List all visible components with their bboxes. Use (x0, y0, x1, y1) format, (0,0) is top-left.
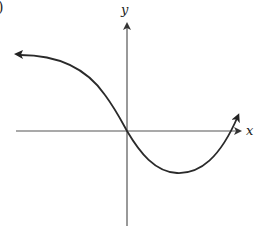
y-axis-label: y (120, 2, 129, 17)
part-label-fragment: ) (0, 0, 3, 15)
function-graph: ) x y (0, 0, 255, 228)
x-axis-label: x (246, 123, 254, 138)
function-curve (20, 55, 238, 173)
